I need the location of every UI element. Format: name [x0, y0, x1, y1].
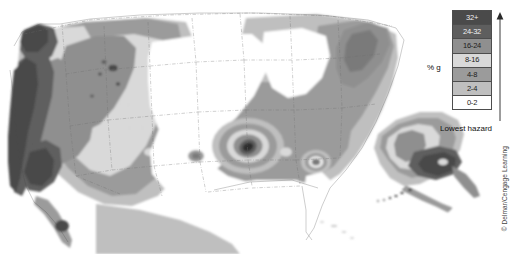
- legend-row-2-4[interactable]: 2-4: [452, 81, 492, 96]
- legend-row-4-8[interactable]: 4-8: [452, 67, 492, 82]
- zone-pocket-arizona: [91, 133, 101, 140]
- hazard-legend: 32+ 24-32 16-24 8-16 4-8 2-4 0-2: [452, 10, 492, 109]
- legend-row-0-2[interactable]: 0-2: [452, 95, 492, 110]
- zone-speck-nevada: [90, 94, 94, 97]
- hazard-spot-alabama: [280, 148, 292, 157]
- hazard-spot-oklahoma-core: [192, 153, 200, 159]
- legend-label-24-32: 24-32: [463, 28, 481, 36]
- lowest-hazard-label: Lowest hazard: [440, 124, 492, 133]
- legend-row-32-plus[interactable]: 32+: [452, 10, 492, 25]
- zone-speck-yellowstone: [109, 65, 118, 71]
- seismic-hazard-figure: 32+ 24-32 16-24 8-16 4-8 2-4 0-2 % g Low…: [0, 0, 524, 254]
- zone-pocket-montana: [119, 101, 129, 107]
- up-arrow-icon: [495, 11, 505, 123]
- charleston-core-16-24: [312, 159, 320, 165]
- legend-row-16-24[interactable]: 16-24: [452, 38, 492, 53]
- legend-label-32-plus: 32+: [466, 14, 478, 22]
- legend-label-16-24: 16-24: [463, 42, 481, 50]
- legend-label-0-2: 0-2: [467, 99, 477, 107]
- zone-speck-borah: [98, 73, 102, 76]
- legend-label-8-16: 8-16: [465, 56, 479, 64]
- legend-row-8-16[interactable]: 8-16: [452, 53, 492, 68]
- zone-pocket-wyoming: [129, 124, 143, 133]
- copyright-credit: © Delmar/Cengage Learning: [501, 146, 508, 231]
- legend-row-24-32[interactable]: 24-32: [452, 24, 492, 39]
- baja-hotspot: [55, 220, 69, 232]
- alaska-core-pocket: [438, 159, 448, 165]
- legend-label-4-8: 4-8: [467, 71, 477, 79]
- legend-units-label: % g: [427, 63, 441, 72]
- legend-label-2-4: 2-4: [467, 85, 477, 93]
- zone-speck-utah: [116, 82, 120, 86]
